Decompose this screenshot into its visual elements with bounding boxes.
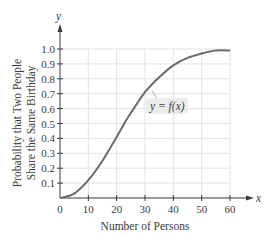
x-tick-label: 10 [83, 203, 95, 215]
y-axis-label-line1: Probability that Two People [11, 59, 24, 187]
y-tick-label: 0.9 [41, 58, 55, 70]
tick-labels: 01020304050600.10.20.30.40.50.60.70.80.9… [41, 43, 236, 215]
curve-label: y = f(x) [149, 100, 185, 113]
y-tick-label: 1.0 [41, 43, 55, 55]
grid-lines [60, 49, 230, 198]
y-tick-label: 0.6 [41, 103, 55, 115]
x-tick-label: 40 [168, 203, 180, 215]
x-axis-arrow-icon [246, 196, 254, 201]
x-tick-label: 50 [196, 203, 208, 215]
y-axis-symbol: y [55, 10, 62, 23]
y-tick-label: 0.1 [41, 177, 55, 189]
curve-annotation: y = f(x) [146, 91, 188, 114]
y-axis-arrow-icon [58, 24, 63, 32]
y-tick-label: 0.7 [41, 88, 55, 100]
x-tick-label: 30 [140, 203, 152, 215]
y-tick-label: 0.4 [41, 132, 55, 144]
x-tick-label: 20 [111, 203, 123, 215]
y-axis-label-line2: Share the Same Birthday [25, 65, 38, 180]
y-tick-label: 0.2 [41, 162, 55, 174]
tick-marks [57, 49, 230, 201]
y-tick-label: 0.5 [41, 118, 55, 130]
x-axis-label: Number of Persons [101, 220, 190, 232]
birthday-probability-chart: 01020304050600.10.20.30.40.50.60.70.80.9… [0, 0, 273, 237]
x-tick-label: 60 [225, 203, 237, 215]
y-tick-label: 0.8 [41, 73, 55, 85]
y-tick-label: 0.3 [41, 147, 55, 159]
x-tick-label: 0 [57, 203, 63, 215]
x-axis-symbol: x [255, 192, 262, 204]
